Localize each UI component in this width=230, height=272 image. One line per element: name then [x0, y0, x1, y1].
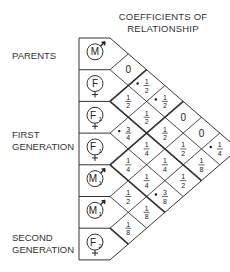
mark-dot-icon: [155, 193, 157, 195]
coefficient-cell: 0: [126, 64, 132, 75]
svg-text:0: 0: [180, 112, 186, 123]
svg-text:8: 8: [200, 166, 204, 173]
mark-dot-icon: [210, 146, 212, 148]
coefficient-cell: 12: [125, 94, 131, 110]
svg-text:1: 1: [145, 78, 149, 85]
svg-text:8: 8: [126, 229, 130, 236]
coefficient-cell: 14: [144, 141, 150, 157]
svg-text:4: 4: [126, 134, 130, 141]
svg-text:1: 1: [145, 110, 149, 117]
svg-text:1: 1: [126, 189, 130, 196]
svg-text:2: 2: [126, 198, 130, 205]
svg-text:2: 2: [163, 134, 167, 141]
coefficient-cell: 12: [162, 126, 168, 142]
svg-text:4: 4: [163, 166, 167, 173]
svg-text:4: 4: [145, 182, 149, 189]
svg-text:4: 4: [218, 150, 222, 157]
svg-text:1: 1: [145, 205, 149, 212]
coefficient-cell: 34: [118, 126, 131, 142]
svg-text:1: 1: [145, 141, 149, 148]
individual-f1-3: F1: [87, 139, 103, 161]
svg-text:2: 2: [126, 102, 130, 109]
svg-text:4: 4: [145, 150, 149, 157]
svg-text:2: 2: [181, 182, 185, 189]
individual-f-1: F: [87, 76, 103, 98]
coefficient-cell: 0: [199, 128, 205, 139]
svg-text:M: M: [89, 205, 97, 216]
svg-text:M: M: [89, 173, 97, 184]
svg-text:3: 3: [163, 189, 167, 196]
coefficient-cell: 12: [136, 78, 149, 94]
svg-text:1: 1: [163, 157, 167, 164]
individual-m1-5: M1: [87, 200, 105, 218]
svg-text:0: 0: [126, 64, 132, 75]
individual-m1-4: M1: [87, 169, 105, 187]
individual-f2-6: F2: [87, 234, 103, 256]
coefficient-cell: 14: [162, 157, 168, 173]
svg-text:3: 3: [126, 126, 130, 133]
coefficient-cell: 18: [125, 221, 131, 237]
svg-text:8: 8: [163, 198, 167, 205]
svg-text:1: 1: [163, 126, 167, 133]
svg-text:8: 8: [145, 213, 149, 220]
svg-text:F: F: [90, 237, 96, 248]
individual-m-0: M: [87, 42, 105, 60]
svg-text:2: 2: [145, 118, 149, 125]
coefficient-cell: 38: [155, 189, 168, 205]
svg-text:1: 1: [218, 141, 222, 148]
svg-text:2: 2: [145, 87, 149, 94]
svg-text:1: 1: [181, 141, 185, 148]
svg-text:M: M: [91, 46, 99, 57]
svg-text:4: 4: [126, 166, 130, 173]
mark-dot-icon: [136, 82, 138, 84]
coefficient-cell: 0: [180, 112, 186, 123]
svg-text:1: 1: [126, 94, 130, 101]
svg-text:F: F: [90, 110, 96, 121]
individual-f1-2: F1: [87, 107, 103, 129]
svg-text:2: 2: [163, 102, 167, 109]
svg-text:F: F: [92, 78, 98, 89]
coefficient-cell: 12: [144, 110, 150, 126]
coefficient-cell: 18: [144, 205, 150, 221]
svg-text:1: 1: [126, 157, 130, 164]
coefficient-cell: 14: [210, 141, 223, 157]
mark-dot-icon: [118, 130, 120, 132]
svg-text:1: 1: [145, 173, 149, 180]
mark-dot-icon: [155, 98, 157, 100]
svg-text:1: 1: [126, 221, 130, 228]
coefficient-cell: 12: [180, 173, 186, 189]
svg-text:0: 0: [199, 128, 205, 139]
svg-text:2: 2: [181, 150, 185, 157]
svg-text:1: 1: [163, 94, 167, 101]
coefficient-cell: 12: [155, 94, 168, 110]
coefficient-cell: 18: [199, 157, 205, 173]
svg-text:1: 1: [181, 173, 185, 180]
coefficient-cell: 12: [125, 189, 131, 205]
relationship-matrix: MFF1F1M1M1F20123414121812121414181212143…: [0, 0, 230, 272]
coefficient-cell: 12: [180, 141, 186, 157]
coefficient-cell: 14: [144, 173, 150, 189]
svg-text:1: 1: [200, 157, 204, 164]
svg-text:F: F: [90, 141, 96, 152]
coefficient-cell: 14: [125, 157, 131, 173]
